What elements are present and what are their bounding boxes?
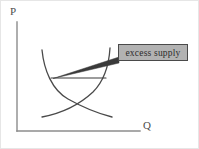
excess-supply-callout-label: excess supply: [125, 48, 180, 58]
price-axis-label: P: [10, 6, 16, 17]
supply-demand-diagram: [0, 0, 199, 149]
callout-pointer: [53, 57, 119, 79]
excess-supply-callout-box: excess supply: [118, 44, 188, 61]
excess-supply-figure: P Q excess supply: [0, 0, 199, 149]
demand-curve: [42, 50, 112, 117]
quantity-axis-label: Q: [143, 120, 151, 131]
